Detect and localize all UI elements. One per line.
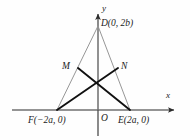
point-label-D: D(0, 2b) — [101, 19, 133, 29]
point-label-M: M — [62, 62, 70, 72]
x-axis-label: x — [166, 91, 170, 100]
point-label-N: N — [121, 62, 127, 72]
segment-FN — [57, 68, 118, 110]
point-label-E: E(2a, 0) — [118, 116, 149, 126]
point-label-F: F(−2a, 0) — [28, 116, 66, 126]
origin-label: O — [101, 114, 108, 124]
geometry-figure: y x D(0, 2b) M N F(−2a, 0) E(2a, 0) O — [0, 0, 190, 140]
y-axis-label: y — [102, 4, 106, 13]
